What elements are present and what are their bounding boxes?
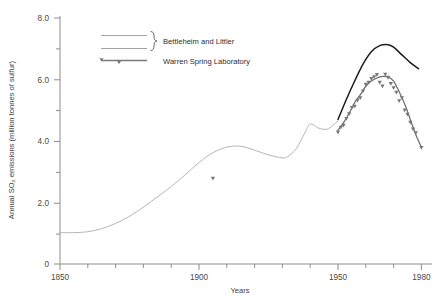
y-axis-tick-labels: 8.0 6.0 4.0 2.0 0 <box>38 14 50 269</box>
series-warren-spring-laboratory <box>338 76 421 147</box>
data-point-marker <box>350 106 354 110</box>
y-tick-label-0: 0 <box>44 260 49 269</box>
data-point-marker <box>397 99 401 103</box>
scatter-points-warren-spring <box>211 73 424 181</box>
legend: Bettleheim and Littler Warren Spring Lab… <box>100 32 251 66</box>
x-tick-label-1900: 1900 <box>190 273 209 282</box>
data-point-marker <box>403 108 407 112</box>
axes <box>60 16 432 264</box>
x-tick-label-1980: 1980 <box>412 273 431 282</box>
y-axis-title: Annual SO₂ emissions (million tonnes of … <box>7 60 16 219</box>
x-axis-title: Years <box>230 286 249 295</box>
data-point-marker <box>211 177 215 181</box>
y-tick-label-2: 2.0 <box>38 199 50 208</box>
data-point-marker <box>394 91 398 95</box>
data-point-marker <box>392 86 396 90</box>
x-axis-ticks <box>60 264 421 270</box>
plot-area <box>60 45 424 233</box>
legend-brace-icon <box>151 32 158 51</box>
data-point-marker <box>336 131 340 135</box>
legend-label-bettleheim-littler: Bettleheim and Littler <box>163 37 235 46</box>
x-tick-label-1950: 1950 <box>329 273 348 282</box>
y-tick-label-8: 8.0 <box>38 14 50 23</box>
y-tick-label-6: 6.0 <box>38 76 50 85</box>
legend-triangle-icon-mid <box>117 61 121 64</box>
legend-label-warren-spring-laboratory: Warren Spring Laboratory <box>163 57 250 66</box>
data-point-marker <box>378 81 382 85</box>
so2-emissions-chart: 8.0 6.0 4.0 2.0 0 1850 1900 1950 1980 Ye… <box>0 0 443 297</box>
y-axis-ticks <box>54 18 60 264</box>
series-bettleheim-littler-historic <box>60 121 338 233</box>
x-tick-label-1850: 1850 <box>51 273 70 282</box>
data-point-marker <box>389 82 393 86</box>
y-tick-label-4: 4.0 <box>38 137 50 146</box>
data-point-marker <box>419 146 423 150</box>
data-point-marker <box>414 131 418 135</box>
x-axis-tick-labels: 1850 1900 1950 1980 <box>51 273 431 282</box>
data-point-marker <box>380 84 384 88</box>
